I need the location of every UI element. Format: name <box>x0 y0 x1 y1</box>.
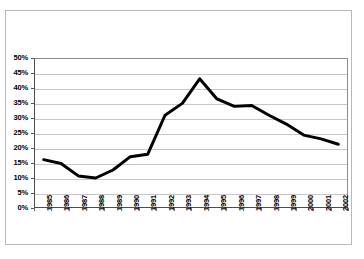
x-tick-mark <box>121 208 122 211</box>
x-tick-label: 1988 <box>98 181 106 211</box>
x-tick-mark <box>278 208 279 211</box>
x-tick-label: 1992 <box>168 181 176 211</box>
x-tick-mark <box>331 208 332 211</box>
x-tick-label: 1990 <box>133 181 141 211</box>
x-tick-mark <box>51 208 52 211</box>
x-tick-label: 1998 <box>273 181 281 211</box>
x-tick-mark <box>69 208 70 211</box>
x-tick-label: 1995 <box>220 181 228 211</box>
x-tick-label: 1997 <box>255 181 263 211</box>
x-tick-mark <box>261 208 262 211</box>
x-tick-label: 2001 <box>325 181 333 211</box>
x-tick-mark <box>313 208 314 211</box>
x-tick-mark <box>296 208 297 211</box>
x-tick-mark <box>86 208 87 211</box>
x-tick-mark <box>174 208 175 211</box>
x-tick-mark <box>348 208 349 211</box>
x-tick-label: 2000 <box>307 181 315 211</box>
x-tick-label: 1994 <box>203 181 211 211</box>
x-tick-mark <box>156 208 157 211</box>
x-tick-mark <box>208 208 209 211</box>
chart-figure: 0%5%10%15%20%25%30%35%40%45%50% 19851986… <box>0 0 364 259</box>
x-axis-tick-labels: 1985198619871988198919901991199219931994… <box>0 0 364 259</box>
x-tick-label: 1989 <box>116 181 124 211</box>
x-tick-mark <box>191 208 192 211</box>
x-tick-label: 1993 <box>185 181 193 211</box>
x-tick-label: 1999 <box>290 181 298 211</box>
x-tick-label: 1985 <box>46 181 54 211</box>
x-tick-label: 1996 <box>238 181 246 211</box>
x-tick-mark <box>139 208 140 211</box>
x-tick-mark <box>104 208 105 211</box>
x-tick-label: 1991 <box>150 181 158 211</box>
x-tick-label: 1987 <box>81 181 89 211</box>
x-tick-mark <box>34 208 35 211</box>
x-tick-label: 1986 <box>63 181 71 211</box>
x-tick-mark <box>226 208 227 211</box>
x-tick-label: 2002 <box>342 181 350 211</box>
x-tick-mark <box>243 208 244 211</box>
